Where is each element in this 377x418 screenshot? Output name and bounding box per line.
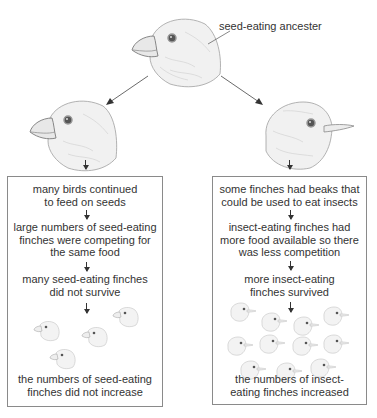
right-outcome: the numbers of insect- eating finches in… xyxy=(213,373,366,398)
left-step-2: large numbers of seed-eating finches wer… xyxy=(8,221,162,259)
left-outcome: the numbers of seed-eating finches did n… xyxy=(8,373,162,398)
left-arrow-1 xyxy=(86,210,87,219)
left-arrow-2 xyxy=(86,262,87,271)
insect-eating-branch-box: some finches had beaks that could be use… xyxy=(212,176,367,405)
seed-finch-population xyxy=(8,299,164,379)
mini-finch-icon xyxy=(294,317,319,335)
right-step-2: insect-eating finches had more food avai… xyxy=(213,221,366,259)
mini-finch-icon xyxy=(82,327,107,346)
mini-finch-icon xyxy=(231,303,256,321)
right-step-3: more insect-eating finches survived xyxy=(213,273,366,298)
seed-eating-branch-box: many birds continued to feed on seeds la… xyxy=(7,176,163,407)
mini-finch-icon xyxy=(34,321,59,340)
arrow-down-left-top xyxy=(85,160,86,169)
arrow-down-right-top xyxy=(289,160,290,169)
mini-finch-icon xyxy=(324,307,349,325)
mini-finch-icon xyxy=(260,335,285,353)
mini-finch-icon xyxy=(293,337,318,355)
label-leader-line xyxy=(206,28,236,48)
mini-finch-icon xyxy=(324,335,349,353)
seed-eating-finch-head xyxy=(28,96,118,176)
mini-finch-icon xyxy=(113,307,138,326)
right-arrow-2 xyxy=(290,261,291,270)
mini-finch-icon xyxy=(228,337,253,355)
left-step-3: many seed-eating finches did not survive xyxy=(8,273,162,298)
right-step-1: some finches had beaks that could be use… xyxy=(213,183,366,208)
mini-finch-icon xyxy=(262,313,287,331)
mini-finch-icon xyxy=(50,349,75,368)
left-step-1: many birds continued to feed on seeds xyxy=(8,183,162,208)
right-arrow-1 xyxy=(290,210,291,219)
insect-eating-finch-head xyxy=(258,96,358,176)
